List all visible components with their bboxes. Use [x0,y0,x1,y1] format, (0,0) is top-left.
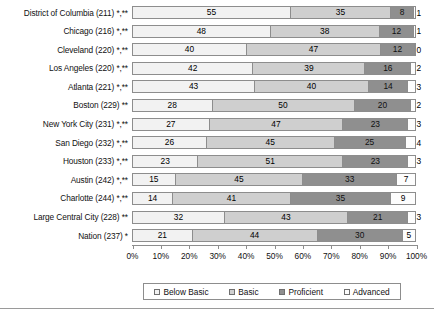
segment-value: 14 [148,194,157,203]
segment-value: 4 [416,139,421,148]
segment-value: 40 [307,82,316,91]
segment-value: 28 [168,101,177,110]
segment-value: 8 [400,8,405,17]
bar-segment-basic: 39 [252,62,364,75]
stacked-bar: 4239162 [132,62,416,75]
bar-segment-below-basic: 27 [132,118,209,131]
category-label: Chicago (216) *,** [0,26,132,36]
x-axis-tick-label: 40% [238,251,255,261]
segment-value: 23 [371,120,380,129]
bar-track: 2645254 [132,136,416,149]
x-axis-tick [417,245,418,249]
segment-value: 5 [407,231,412,240]
legend-item-proficient[interactable]: Proficient [279,287,323,297]
bar-segment-advanced: 7 [396,173,416,186]
segment-value: 41 [227,194,236,203]
bar-track: 1441359 [132,192,416,205]
bar-segment-proficient: 14 [368,80,408,93]
x-axis-tick [388,245,389,249]
segment-value: 47 [271,120,280,129]
bar-segment-below-basic: 32 [132,211,224,224]
bar-segment-basic: 44 [192,229,317,242]
segment-value: 2 [416,64,421,73]
bar-segment-below-basic: 15 [132,173,175,186]
legend-swatch-icon [229,289,235,295]
bar-segment-advanced: 9 [390,192,416,205]
segment-value: 35 [336,194,345,203]
bar-segment-basic: 43 [224,211,347,224]
bar-segment-proficient: 21 [347,211,407,224]
bar-track: 553581 [132,6,416,19]
category-label: District of Columbia (211) *,** [0,8,132,18]
segment-value: 38 [320,27,329,36]
segment-value: 3 [416,213,421,222]
segment-value: 45 [266,138,275,147]
bar-segment-proficient: 16 [364,62,410,75]
stacked-bar: 553581 [132,6,416,19]
legend-item-advanced[interactable]: Advanced [344,287,390,297]
bar-track: 2351233 [132,155,416,168]
bar-segment-below-basic: 28 [132,99,212,112]
bar-segment-advanced: 1 [413,6,416,19]
x-axis-tick-label: 60% [295,251,312,261]
chart-row: Cleveland (220) *,**4047120 [0,41,434,58]
x-axis-tick-label: 10% [153,251,170,261]
bar-segment-advanced: 2 [410,62,416,75]
bar-segment-advanced: 3 [407,118,416,131]
x-axis-tick-label: 0% [127,251,139,261]
bar-segment-advanced: 3 [407,80,416,93]
chart-row: Large Central City (228) **3243213 [0,209,434,226]
bar-track: 2144305 [132,229,416,242]
bar-segment-below-basic: 43 [132,80,254,93]
chart-row: Houston (233) *,**2351233 [0,153,434,170]
segment-value: 2 [416,101,421,110]
stacked-bar-chart: District of Columbia (211) *,**553581Chi… [0,0,434,314]
legend-label: Proficient [288,287,323,297]
bar-segment-advanced: 3 [407,211,416,224]
segment-value: 27 [166,120,175,129]
segment-value: 32 [174,213,183,222]
stacked-bar: 4838121 [132,25,416,38]
category-label: Houston (233) *,** [0,156,132,166]
x-axis-tick-label: 70% [323,251,340,261]
segment-value: 1 [416,9,421,18]
bar-segment-proficient: 12 [379,25,413,38]
segment-value: 21 [373,213,382,222]
stacked-bar: 1545337 [132,173,416,186]
bar-track: 4838121 [132,25,416,38]
segment-value: 44 [250,231,259,240]
x-axis-tick-label: 30% [209,251,226,261]
bar-segment-proficient: 30 [317,229,402,242]
bar-segment-basic: 40 [254,80,368,93]
bar-track: 1545337 [132,173,416,186]
x-axis-tick-label: 90% [380,251,397,261]
chart-row: Los Angeles (220) *,**4239162 [0,60,434,77]
category-label: New York City (231) *,** [0,119,132,129]
segment-value: 23 [160,157,169,166]
bar-segment-proficient: 20 [354,99,411,112]
x-axis-tick [275,245,276,249]
bar-segment-advanced: 0 [414,43,416,56]
category-label: Large Central City (228) ** [0,212,132,222]
segment-value: 15 [149,175,158,184]
chart-row: San Diego (232) *,**2645254 [0,134,434,151]
bar-segment-below-basic: 14 [132,192,172,205]
chart-row: Atlanta (221) *,**4340143 [0,78,434,95]
bar-track: 4047120 [132,43,416,56]
segment-value: 12 [393,45,402,54]
x-axis-tick [218,245,219,249]
chart-row: Charlotte (244) *,**1441359 [0,190,434,207]
bar-segment-basic: 47 [209,118,342,131]
segment-value: 30 [355,231,364,240]
category-label: Austin (242) *,** [0,175,132,185]
stacked-bar: 2850202 [132,99,416,112]
bar-segment-below-basic: 55 [132,6,290,19]
segment-value: 39 [304,64,313,73]
segment-value: 42 [188,64,197,73]
bar-segment-below-basic: 48 [132,25,270,38]
category-label: Charlotte (244) *,** [0,193,132,203]
x-axis-tick [331,245,332,249]
legend-item-basic[interactable]: Basic [229,287,258,297]
legend-item-below-basic[interactable]: Below Basic [154,287,208,297]
x-axis-tick-label: 80% [351,251,368,261]
